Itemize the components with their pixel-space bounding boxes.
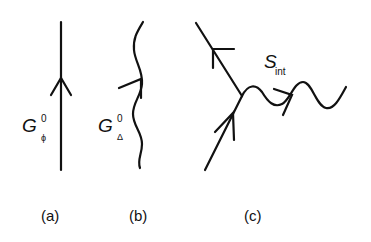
label-subscript: int: [275, 67, 286, 77]
label-superscript: 0: [117, 114, 123, 124]
label-subscript: ϕ: [41, 134, 46, 143]
outgoing-line: [196, 23, 242, 96]
caption-a: (a): [41, 208, 59, 223]
incoming-line: [205, 96, 242, 170]
caption-b: (b): [129, 208, 147, 223]
label-main: G: [22, 115, 37, 136]
feynman-diagrams-canvas: [0, 0, 371, 242]
label-g-delta: G 0 Δ: [98, 116, 113, 135]
vertex-c: [196, 23, 346, 170]
label-superscript: 0: [41, 114, 47, 124]
label-main: G: [98, 115, 113, 136]
caption-c: (c): [244, 208, 262, 223]
label-s-int: S int: [264, 52, 277, 71]
label-subscript: Δ: [117, 133, 123, 142]
propagator-a: [51, 22, 71, 170]
propagator-b: [119, 22, 143, 168]
label-g-phi: G 0 ϕ: [22, 116, 37, 135]
wavy-interaction-line: [242, 82, 346, 108]
